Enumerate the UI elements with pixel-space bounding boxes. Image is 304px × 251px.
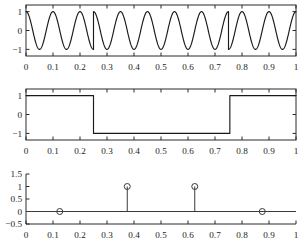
x-tick-label: 0.5 bbox=[155, 62, 167, 72]
x-tick-label: 0.6 bbox=[182, 230, 194, 240]
x-tick-label: 0.3 bbox=[101, 62, 113, 72]
x-tick-label: 0.4 bbox=[128, 146, 140, 156]
matlab-figure-window: 00.10.20.30.40.50.60.70.80.91−101 00.10.… bbox=[0, 0, 304, 251]
axis-tick-labels: 00.10.20.30.40.50.60.70.80.91−101 bbox=[12, 91, 298, 156]
y-tick-label: 1 bbox=[17, 7, 22, 17]
x-tick-label: 0 bbox=[24, 62, 29, 72]
y-tick-label: 0 bbox=[17, 110, 22, 120]
x-tick-label: 0.2 bbox=[74, 62, 86, 72]
y-tick-label: 1.5 bbox=[11, 169, 23, 179]
plot-box bbox=[26, 89, 296, 140]
x-tick-label: 1 bbox=[294, 230, 299, 240]
x-tick-label: 0.6 bbox=[182, 62, 194, 72]
x-tick-label: 1 bbox=[294, 146, 299, 156]
x-tick-label: 0.8 bbox=[236, 146, 248, 156]
x-tick-label: 0.7 bbox=[209, 146, 221, 156]
x-tick-label: 0 bbox=[24, 230, 29, 240]
x-tick-label: 0.2 bbox=[74, 146, 86, 156]
x-tick-label: 0.1 bbox=[47, 146, 59, 156]
y-tick-label: 0 bbox=[17, 207, 22, 217]
y-tick-label: −1 bbox=[12, 129, 22, 139]
x-tick-label: 0.9 bbox=[263, 62, 275, 72]
carrier-waveform-line bbox=[26, 12, 296, 50]
x-tick-label: 0.1 bbox=[47, 230, 59, 240]
x-tick-label: 0.6 bbox=[182, 146, 194, 156]
x-tick-label: 0 bbox=[24, 146, 29, 156]
x-tick-label: 0.7 bbox=[209, 62, 221, 72]
axis-lines bbox=[26, 174, 296, 224]
x-tick-label: 0.5 bbox=[155, 146, 167, 156]
y-tick-label: 1 bbox=[17, 182, 22, 192]
chart-panel-data-waveform: 00.10.20.30.40.50.60.70.80.91−101 bbox=[0, 84, 304, 168]
plot-box bbox=[26, 5, 296, 56]
y-tick-label: −0.5 bbox=[5, 219, 22, 229]
y-tick-label: 0.5 bbox=[11, 194, 23, 204]
bpsk-carrier-plot: 00.10.20.30.40.50.60.70.80.91−101 bbox=[0, 0, 304, 84]
x-tick-label: 0.9 bbox=[263, 146, 275, 156]
stem-series bbox=[26, 184, 296, 215]
y-tick-label: 1 bbox=[17, 91, 22, 101]
x-tick-label: 0.4 bbox=[128, 62, 140, 72]
y-tick-label: −1 bbox=[12, 45, 22, 55]
x-tick-label: 0.2 bbox=[74, 230, 86, 240]
y-tick-label: 0 bbox=[17, 26, 22, 36]
x-tick-label: 0.5 bbox=[155, 230, 167, 240]
decoded-bits-stem-plot: 00.10.20.30.40.50.60.70.80.91−0.500.511.… bbox=[0, 168, 304, 251]
axis-lines bbox=[26, 5, 296, 56]
x-tick-label: 0.3 bbox=[101, 146, 113, 156]
x-tick-label: 0.3 bbox=[101, 230, 113, 240]
axis-tick-labels: 00.10.20.30.40.50.60.70.80.91−101 bbox=[12, 7, 298, 72]
x-tick-label: 0.8 bbox=[236, 62, 248, 72]
x-tick-label: 0.9 bbox=[263, 230, 275, 240]
chart-panel-bpsk-carrier: 00.10.20.30.40.50.60.70.80.91−101 bbox=[0, 0, 304, 84]
axis-lines bbox=[26, 89, 296, 140]
x-tick-label: 0.7 bbox=[209, 230, 221, 240]
x-tick-label: 0.8 bbox=[236, 230, 248, 240]
chart-panel-decoded-bits: 00.10.20.30.40.50.60.70.80.91−0.500.511.… bbox=[0, 168, 304, 251]
square-wave-line bbox=[26, 96, 296, 134]
x-tick-label: 0.1 bbox=[47, 62, 59, 72]
data-square-wave-plot: 00.10.20.30.40.50.60.70.80.91−101 bbox=[0, 84, 304, 168]
x-tick-label: 0.4 bbox=[128, 230, 140, 240]
axis-tick-labels: 00.10.20.30.40.50.60.70.80.91−0.500.511.… bbox=[5, 169, 298, 240]
x-tick-label: 1 bbox=[294, 62, 299, 72]
